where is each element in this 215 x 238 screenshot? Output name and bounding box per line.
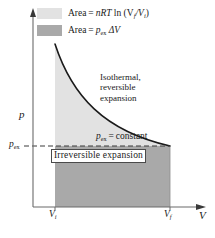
legend-swatch-irreversible [37,25,62,36]
legend-prefix-reversible: Area = [68,8,96,18]
y-axis-label: p [19,108,25,121]
legend-label-irreversible: Area = pex ΔV [68,25,120,36]
y-tick-pex-sub: ex [14,143,20,150]
annotation-isothermal-line1: Isothermal, [100,72,141,82]
legend-slash-v: /V [135,8,143,18]
annotation-pex-rest: = constant [107,131,148,141]
annotation-irreversible-expansion: Irreversible expansion [51,149,146,163]
legend-paren-open: (V [124,8,134,18]
legend-nrt: nRT [96,8,112,18]
legend-swatch-reversible [37,8,62,19]
annotation-isothermal-line2: reversible [100,82,135,92]
x-tick-vf-sub: f [170,213,172,220]
annotation-isothermal-reversible-expansion: Isothermal,reversibleexpansion [100,72,141,103]
legend-label-reversible: Area = nRT ln (Vf/Vi) [68,8,149,19]
y-axis-arrowhead [30,8,36,17]
legend-paren-close: ) [146,8,149,18]
x-tick-label-vf: Vf [164,209,172,220]
annotation-pex-constant: pex = constant [96,131,148,142]
pv-diagram-figure: Area = nRT ln (Vf/Vi) Area = pex ΔV p V … [0,0,215,238]
legend-prefix-irreversible: Area = [68,25,96,35]
annotation-isothermal-line3: expansion [100,93,137,103]
legend-sub-ex: ex [100,29,106,36]
legend-ln: ln [114,8,121,18]
x-tick-vi-sub: i [55,213,57,220]
x-axis-label: V [199,209,206,222]
x-tick-label-vi: Vi [49,209,57,220]
y-tick-label-pex: pex [9,139,20,150]
legend-delta-v: ΔV [109,25,120,35]
